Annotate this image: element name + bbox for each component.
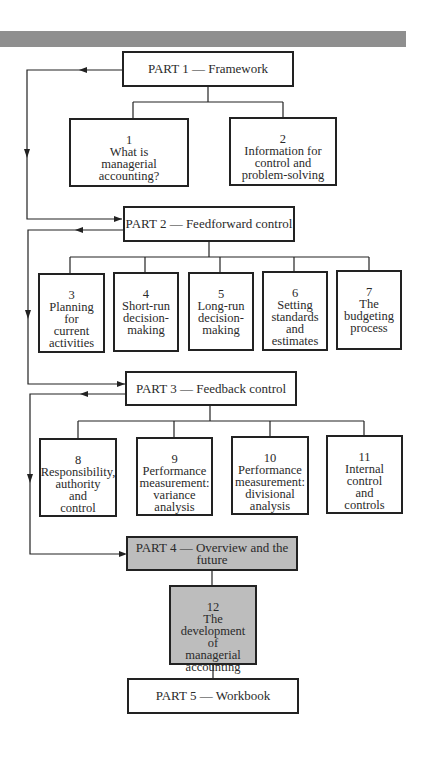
chapter-title-line: activities	[49, 337, 94, 349]
chapter-title-line: problem-solving	[242, 169, 325, 181]
chapter-11-box: 11 Internal control and controls	[326, 435, 403, 514]
chapter-7-box: 7 The budgeting process	[336, 270, 402, 350]
chapter-4-box: 4 Short-run decision- making	[113, 272, 179, 352]
chapter-title-line: analysis	[250, 500, 290, 512]
chapter-title-line: process	[350, 322, 388, 334]
chapter-title-line: managerial accounting?	[71, 158, 187, 182]
chapter-title-line: estimates	[272, 335, 319, 347]
part-3-label: PART 3 — Feedback control	[136, 383, 286, 395]
part-4-label: PART 4 — Overview and the future	[128, 542, 296, 566]
chapter-5-box: 5 Long-run decision- making	[188, 272, 254, 351]
part-4-overview-and-future: PART 4 — Overview and the future	[126, 536, 298, 571]
chapter-title-line: control	[60, 502, 95, 514]
chapter-10-box: 10 Performance measurement: divisional a…	[231, 436, 309, 515]
part-3-feedback-control: PART 3 — Feedback control	[125, 371, 297, 406]
chapter-title-line: analysis	[154, 501, 194, 513]
chapter-2-box: 2 Information for control and problem-so…	[229, 117, 337, 186]
chapter-title-line: controls	[344, 499, 384, 511]
chapter-title-line: accounting	[186, 661, 241, 673]
chapter-title-line: making	[202, 324, 240, 336]
part-1-framework: PART 1 — Framework	[122, 51, 294, 87]
chapter-title-line: The development	[171, 613, 255, 637]
part-5-workbook: PART 5 — Workbook	[127, 678, 299, 714]
part-2-label: PART 2 — Feedforward control	[126, 218, 293, 230]
part-2-feedforward-control: PART 2 — Feedforward control	[123, 206, 295, 242]
chapter-3-box: 3 Planning for current activities	[38, 273, 105, 353]
chapter-8-box: 8 Responsibility, authority and control	[39, 438, 117, 517]
part-1-label: PART 1 — Framework	[148, 63, 268, 75]
chapter-title-line: making	[127, 324, 165, 336]
chapter-12-box: 12 The development of managerial account…	[169, 585, 257, 665]
chapter-9-box: 9 Performance measurement: variance anal…	[136, 437, 213, 516]
part-5-label: PART 5 — Workbook	[156, 690, 271, 702]
chapter-6-box: 6 Setting standards and estimates	[262, 271, 328, 351]
chapter-1-box: 1 What is managerial accounting?	[69, 118, 189, 187]
